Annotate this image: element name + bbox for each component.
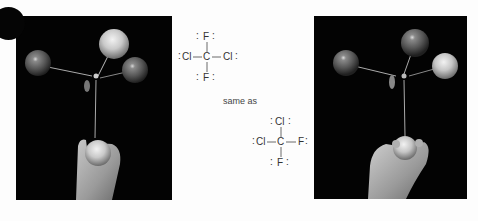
ball-left-dark: [333, 50, 359, 76]
atom-bottom: F: [203, 72, 209, 83]
atom-left: Cl: [256, 136, 265, 147]
atom-right: Cl: [223, 51, 232, 62]
ball-bottom-light: [393, 136, 417, 160]
lewis-structure-top: F : : Cl : C Cl : F : :: [176, 28, 246, 88]
center-atom: [84, 80, 90, 92]
atom-right: F: [298, 136, 304, 147]
atom-bottom: F: [277, 157, 283, 168]
ball-top-dark: [401, 29, 429, 57]
molecule-model-photo-right: [314, 16, 467, 199]
molecule-model-photo-left: [16, 16, 172, 200]
atom-center: C: [203, 51, 210, 62]
atom-top: F: [203, 31, 209, 42]
ball-left-dark: [25, 50, 51, 76]
same-as-label: same as: [223, 96, 257, 106]
ball-top-light: [99, 29, 129, 59]
center-atom: [389, 75, 395, 89]
ball-right-dark: [122, 57, 148, 83]
ball-right-light: [432, 53, 458, 79]
atom-top: Cl: [275, 116, 284, 127]
atom-left: Cl: [182, 51, 191, 62]
ball-bottom-light: [85, 140, 111, 166]
lewis-structure-bottom: Cl : : Cl : C F : F : :: [250, 113, 320, 173]
atom-center: C: [277, 136, 284, 147]
bond-stick: [95, 80, 96, 138]
